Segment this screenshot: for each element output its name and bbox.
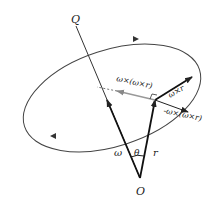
dashed-radial-line (97, 87, 117, 91)
label-omega-cross-omega-cross-r: ω×(ω×r) (116, 74, 154, 90)
label-neg-omega-cross-omega-cross-r: -ω×(ω×r) (163, 106, 203, 123)
diagram-canvas: Q O θ ω r ω×r ω×(ω×r) -ω×(ω×r) (0, 0, 221, 209)
rotation-ellipse (10, 24, 215, 172)
label-omega-cross-r: ω×r (167, 83, 187, 100)
label-omega: ω (114, 147, 122, 158)
label-q: Q (71, 13, 80, 26)
ellipse-direction-arrow-top (133, 36, 139, 42)
label-origin: O (136, 185, 145, 198)
r-vector-arrow (140, 100, 155, 178)
omega-cross-omega-cross-r-arrow (117, 91, 155, 100)
omega-vector-arrow (107, 100, 140, 178)
label-r: r (153, 147, 159, 158)
right-angle-marker (150, 94, 157, 99)
label-theta: θ (134, 148, 140, 158)
ellipse-direction-arrow-bottom (50, 133, 56, 139)
